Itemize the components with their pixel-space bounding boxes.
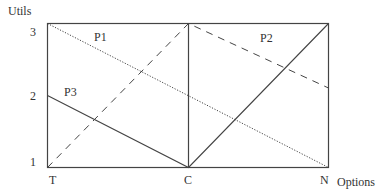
- series-p1-label: P1: [94, 30, 107, 44]
- x-tick-C: C: [184, 173, 192, 187]
- x-tick-T: T: [49, 173, 57, 187]
- series-p3-label: P3: [64, 85, 77, 99]
- x-axis-label: Options: [337, 175, 375, 189]
- utility-diagram: Utils Options 3 2 1 T C N P1 P2 P3: [0, 0, 386, 196]
- x-tick-N: N: [320, 173, 329, 187]
- y-tick-3: 3: [30, 25, 36, 39]
- y-tick-2: 2: [30, 89, 36, 103]
- y-tick-1: 1: [30, 155, 36, 169]
- y-axis-label: Utils: [8, 4, 32, 18]
- series-p2-label: P2: [260, 31, 273, 45]
